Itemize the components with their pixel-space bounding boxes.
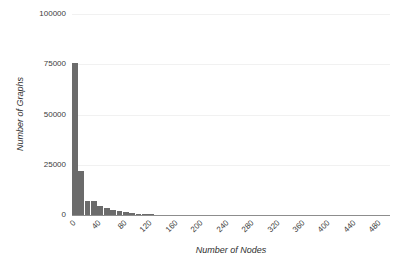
y-axis-tick-label: 0 (0, 211, 66, 219)
x-axis-title: Number of Nodes (72, 245, 390, 255)
x-axis-tick-label: 120 (106, 219, 154, 266)
y-axis-tick-label: 100000 (0, 10, 66, 18)
bar (72, 63, 78, 215)
x-axis-tick-label: 80 (80, 219, 128, 266)
x-axis-line (72, 215, 390, 216)
y-axis-tick-label: 75000 (0, 60, 66, 68)
bar-series (72, 14, 390, 215)
y-axis-tick-label: 25000 (0, 161, 66, 169)
x-axis-tick-label: 40 (55, 219, 103, 266)
bar (97, 206, 103, 215)
x-axis-tick-label: 0 (30, 219, 78, 266)
histogram-chart: Number of Graphs 0250005000075000100000 … (0, 0, 405, 266)
bar (78, 171, 84, 215)
bar (85, 201, 91, 215)
bar (91, 201, 97, 215)
bar (104, 208, 110, 215)
plot-area (72, 14, 390, 215)
y-axis-tick-label: 50000 (0, 111, 66, 119)
